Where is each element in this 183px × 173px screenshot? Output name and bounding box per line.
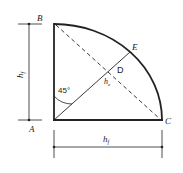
point-b-label: B — [37, 13, 43, 23]
angle-arc — [54, 96, 72, 104]
throat-label: he — [104, 77, 111, 87]
point-e-label: E — [131, 42, 138, 52]
point-a-label: A — [28, 124, 35, 134]
angle-label: 45° — [58, 86, 70, 95]
weld-diagram: B A C E D 45° he hf hf — [0, 0, 183, 173]
point-d-label: D — [117, 65, 124, 75]
horizontal-dimension-label: hf — [103, 134, 111, 145]
vertical-dimension-label: hf — [15, 71, 26, 79]
point-c-label: C — [165, 116, 172, 126]
